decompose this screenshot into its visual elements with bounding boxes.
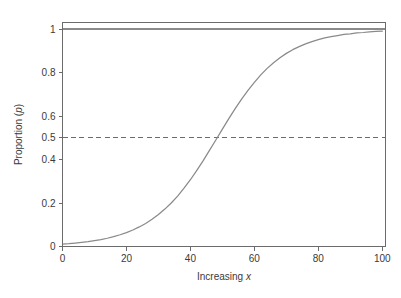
y-tick-label-3: 0.5 — [42, 132, 56, 143]
plot-canvas: 00.20.40.50.60.81020406080100Increasing … — [0, 0, 401, 298]
y-tick-label-2: 0.4 — [42, 154, 56, 165]
chart-figure: 00.20.40.50.60.81020406080100Increasing … — [0, 0, 401, 298]
x-tick-label-2: 40 — [185, 253, 197, 264]
y-tick-label-0: 0 — [50, 241, 56, 252]
x-axis-title: Increasing x — [197, 271, 252, 282]
x-tick-label-4: 80 — [313, 253, 325, 264]
y-tick-label-1: 0.2 — [42, 198, 56, 209]
x-tick-label-5: 100 — [374, 253, 391, 264]
x-tick-label-3: 60 — [249, 253, 261, 264]
y-tick-label-5: 0.8 — [42, 67, 56, 78]
x-tick-label-1: 20 — [121, 253, 133, 264]
y-tick-label-4: 0.6 — [42, 111, 56, 122]
y-tick-label-6: 1 — [50, 24, 56, 35]
y-axis-title: Proportion (p) — [13, 104, 24, 165]
x-tick-label-0: 0 — [60, 253, 66, 264]
